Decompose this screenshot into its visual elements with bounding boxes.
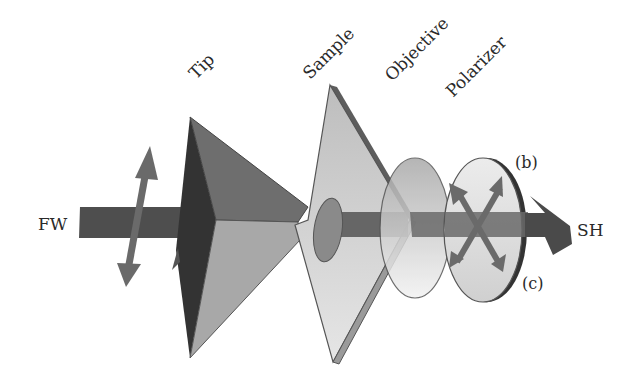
label-sample: Sample [299,23,359,83]
label-polarizer: Polarizer [442,31,511,100]
label-objective: Objective [381,13,453,85]
label-b: (b) [515,153,538,172]
tip-pyramid [172,117,308,358]
label-sh: SH [577,220,603,240]
polarizer-disc [444,158,528,302]
label-tip: Tip [185,49,219,83]
label-c: (c) [522,274,543,293]
second-harmonic-beam [525,196,572,255]
diagram-canvas: Tip Sample Objective Polarizer FW SH (b)… [0,0,632,385]
objective-lens [380,158,450,298]
label-fw: FW [38,214,68,234]
shg-tip-microscopy-diagram: Tip Sample Objective Polarizer FW SH (b)… [0,0,632,385]
